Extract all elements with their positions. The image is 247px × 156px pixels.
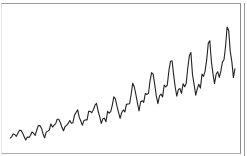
data-line	[10, 27, 235, 140]
line-plot	[0, 0, 247, 156]
